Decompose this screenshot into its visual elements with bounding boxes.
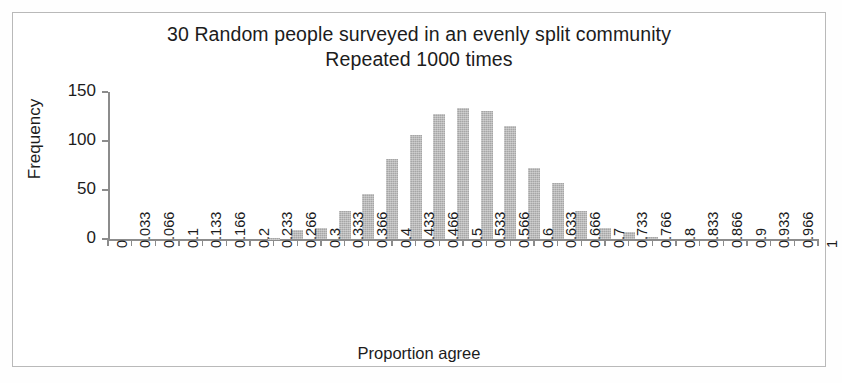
bar: [481, 111, 493, 239]
x-tick-0.733: [628, 240, 629, 246]
x-tick-label-0.8: 0.8: [682, 228, 698, 248]
x-tick-label-0.433: 0.433: [421, 212, 437, 248]
x-tick-label-0.066: 0.066: [161, 212, 177, 248]
x-axis-title: Proportion agree: [12, 344, 826, 363]
x-tick-0.166: [226, 240, 227, 246]
x-tick-0.4: [391, 240, 392, 246]
y-tick-label-50: 50: [52, 179, 96, 199]
bar: [410, 135, 422, 239]
x-tick-label-0.4: 0.4: [398, 228, 414, 248]
x-tick-label-0.533: 0.533: [492, 212, 508, 248]
x-tick-0.933: [770, 240, 771, 246]
x-tick-0.6: [533, 240, 534, 246]
figure-canvas: 30 Random people surveyed in an evenly s…: [0, 0, 842, 383]
y-axis-title: Frequency: [25, 79, 45, 199]
x-tick-label-0.766: 0.766: [658, 212, 674, 248]
x-tick-0.033: [131, 240, 132, 246]
y-tick-label-150: 150: [52, 81, 96, 101]
x-tick-label-0.033: 0.033: [137, 212, 153, 248]
x-tick-0.3: [320, 240, 321, 246]
x-tick-0.7: [604, 240, 605, 246]
x-tick-0.9: [746, 240, 747, 246]
x-tick-0.266: [297, 240, 298, 246]
x-tick-0.433: [415, 240, 416, 246]
x-tick-0.8: [675, 240, 676, 246]
x-tick-0.966: [794, 240, 795, 246]
x-tick-label-0.1: 0.1: [185, 228, 201, 248]
x-tick-label-0.133: 0.133: [208, 212, 224, 248]
x-tick-label-0.833: 0.833: [705, 212, 721, 248]
x-tick-label-0.733: 0.733: [634, 212, 650, 248]
x-tick-0.233: [273, 240, 274, 246]
x-tick-label-0.633: 0.633: [563, 212, 579, 248]
x-tick-label-0.233: 0.233: [279, 212, 295, 248]
x-tick-label-0.466: 0.466: [445, 212, 461, 248]
x-tick-0.2: [249, 240, 250, 246]
x-tick-label-0.3: 0.3: [327, 228, 343, 248]
x-tick-label-0: 0: [114, 240, 130, 248]
y-tick-label-100: 100: [52, 130, 96, 150]
x-tick-0.333: [344, 240, 345, 246]
y-tick-label-0: 0: [52, 228, 96, 248]
x-tick-0.833: [699, 240, 700, 246]
x-tick-0.666: [581, 240, 582, 246]
y-tick-0: [102, 238, 108, 240]
x-tick-0.366: [368, 240, 369, 246]
y-axis-line: [108, 92, 110, 240]
x-tick-label-0.6: 0.6: [540, 228, 556, 248]
x-tick-label-0.566: 0.566: [516, 212, 532, 248]
x-tick-label-0.333: 0.333: [350, 212, 366, 248]
x-tick-label-0.166: 0.166: [232, 212, 248, 248]
x-tick-0: [107, 240, 108, 246]
x-tick-0.533: [486, 240, 487, 246]
y-axis-tick-labels: 150100500: [48, 0, 96, 383]
y-tick-150: [102, 91, 108, 93]
x-tick-label-0.866: 0.866: [729, 212, 745, 248]
x-tick-label-0.5: 0.5: [469, 228, 485, 248]
x-tick-0.633: [557, 240, 558, 246]
x-tick-0.066: [155, 240, 156, 246]
x-tick-label-0.7: 0.7: [611, 228, 627, 248]
x-tick-label-0.666: 0.666: [587, 212, 603, 248]
x-tick-label-0.2: 0.2: [256, 228, 272, 248]
y-tick-100: [102, 140, 108, 142]
plot-area: 150100500 Frequency 00.0330.0660.10.1330…: [0, 0, 842, 383]
x-tick-1: [817, 240, 818, 246]
x-tick-label-0.366: 0.366: [374, 212, 390, 248]
x-tick-0.566: [510, 240, 511, 246]
x-tick-label-0.9: 0.9: [753, 228, 769, 248]
x-tick-0.766: [652, 240, 653, 246]
x-tick-label-1: 1: [824, 240, 840, 248]
x-tick-label-0.266: 0.266: [303, 212, 319, 248]
x-tick-0.466: [439, 240, 440, 246]
x-tick-0.866: [723, 240, 724, 246]
x-tick-label-0.966: 0.966: [800, 212, 816, 248]
y-tick-50: [102, 189, 108, 191]
x-tick-0.1: [178, 240, 179, 246]
x-tick-0.133: [202, 240, 203, 246]
x-tick-0.5: [462, 240, 463, 246]
x-tick-label-0.933: 0.933: [776, 212, 792, 248]
